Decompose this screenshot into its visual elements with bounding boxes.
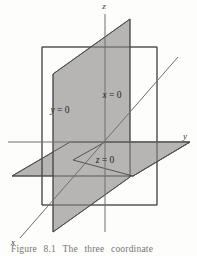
- plane-label-z0-rest: = 0: [99, 155, 114, 165]
- figure-caption-text: Figure 8.1 The three coordinate: [11, 244, 153, 254]
- plane-label-x0-rest: = 0: [107, 90, 122, 100]
- plane-label-x0: x = 0: [101, 90, 121, 100]
- axis-label-z: z: [101, 1, 106, 11]
- plane-label-y0-rest: = 0: [55, 105, 70, 115]
- plane-label-y0: y = 0: [49, 105, 69, 115]
- plane-label-z0: z = 0: [95, 155, 115, 165]
- figure-caption: Figure 8.1 The three coordinate: [0, 244, 197, 256]
- axis-label-y: y: [182, 131, 187, 141]
- coordinate-planes-diagram: z y x x = 0 y = 0 z = 0: [0, 0, 197, 256]
- figure-container: z y x x = 0 y = 0 z = 0 Figure 8.1 The t…: [0, 0, 197, 256]
